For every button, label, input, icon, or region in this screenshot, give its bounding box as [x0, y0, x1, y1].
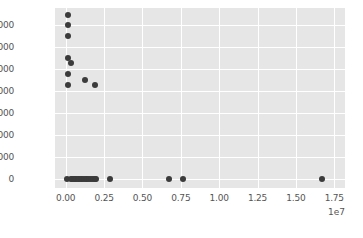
gridline-horizontal — [55, 157, 345, 158]
x-axis-tick-label: 0.75 — [171, 193, 190, 203]
gridline-vertical — [334, 8, 335, 188]
gridline-vertical — [142, 8, 143, 188]
data-point — [93, 176, 99, 182]
data-point — [107, 176, 113, 182]
data-point — [68, 60, 74, 66]
x-axis-tick-label: 0.00 — [56, 193, 75, 203]
gridline-horizontal — [55, 69, 345, 70]
x-axis-tick-label: 1.00 — [210, 193, 229, 203]
x-axis-tick-label: 0.25 — [94, 193, 113, 203]
x-axis-tick-label: 0.50 — [133, 193, 152, 203]
x-axis-tick-label: 1.50 — [286, 193, 305, 203]
plot-area — [55, 8, 345, 188]
y-axis-tick-label: 40000 — [0, 130, 14, 140]
x-axis-tick-label: 1.25 — [248, 193, 267, 203]
y-axis-tick-label: 0 — [8, 174, 14, 184]
data-point — [82, 77, 88, 83]
gridline-vertical — [104, 8, 105, 188]
data-point — [65, 82, 71, 88]
data-point — [65, 71, 71, 77]
gridline-vertical — [219, 8, 220, 188]
data-point — [65, 33, 71, 39]
gridline-vertical — [181, 8, 182, 188]
gridline-horizontal — [55, 135, 345, 136]
gridline-horizontal — [55, 91, 345, 92]
gridline-vertical — [258, 8, 259, 188]
data-point — [180, 176, 186, 182]
data-point — [92, 82, 98, 88]
data-point — [65, 22, 71, 28]
y-axis-tick-label: 20000 — [0, 152, 14, 162]
gridline-horizontal — [55, 25, 345, 26]
y-axis-tick-label: 140000 — [0, 20, 14, 30]
scatter-plot-figure: 020000400006000080000100000120000140000 … — [0, 0, 363, 238]
data-point — [166, 176, 172, 182]
gridline-horizontal — [55, 113, 345, 114]
gridline-vertical — [296, 8, 297, 188]
y-axis-tick-label: 60000 — [0, 108, 14, 118]
y-axis-tick-label: 120000 — [0, 42, 14, 52]
y-axis-tick-label: 100000 — [0, 64, 14, 74]
data-point — [319, 176, 325, 182]
data-point — [65, 12, 71, 18]
x-axis-offset-label: 1e7 — [328, 207, 345, 217]
y-axis-tick-label: 80000 — [0, 86, 14, 96]
gridline-horizontal — [55, 47, 345, 48]
x-axis-tick-label: 1.75 — [325, 193, 344, 203]
